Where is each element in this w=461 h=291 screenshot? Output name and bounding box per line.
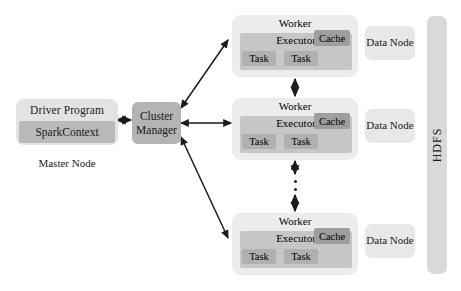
- cache-box[interactable]: Cache: [314, 113, 350, 129]
- data-node-3[interactable]: Data Node: [365, 224, 415, 258]
- task-box[interactable]: Task: [242, 249, 276, 264]
- ellipsis-dot: [294, 180, 297, 183]
- task-box[interactable]: Task: [242, 51, 276, 66]
- worker-title: Worker: [232, 100, 358, 112]
- diagram-canvas: Driver Program SparkContext Master Node …: [0, 0, 461, 291]
- cache-box[interactable]: Cache: [314, 228, 350, 244]
- hdfs-storage-bar[interactable]: HDFS: [427, 16, 447, 274]
- cluster-manager-line1: Cluster: [140, 109, 173, 123]
- data-node-2[interactable]: Data Node: [365, 109, 415, 143]
- driver-program-label: Driver Program: [16, 99, 118, 121]
- sparkcontext-box[interactable]: SparkContext: [19, 121, 115, 143]
- cache-box[interactable]: Cache: [314, 30, 350, 46]
- task-box[interactable]: Task: [284, 51, 318, 66]
- hdfs-label: HDFS: [430, 128, 445, 163]
- worker-title: Worker: [232, 17, 358, 29]
- worker-node-3[interactable]: Worker Executor Cache Task Task: [232, 213, 358, 275]
- cluster-manager-box[interactable]: Cluster Manager: [132, 102, 181, 144]
- executor-box[interactable]: Executor Cache Task Task: [240, 231, 352, 268]
- data-node-1[interactable]: Data Node: [365, 26, 415, 60]
- worker-node-1[interactable]: Worker Executor Cache Task Task: [232, 15, 358, 77]
- task-box[interactable]: Task: [242, 134, 276, 149]
- worker-node-2[interactable]: Worker Executor Cache Task Task: [232, 98, 358, 160]
- master-node-label: Master Node: [16, 157, 118, 169]
- executor-box[interactable]: Executor Cache Task Task: [240, 33, 352, 70]
- task-box[interactable]: Task: [284, 134, 318, 149]
- worker-title: Worker: [232, 215, 358, 227]
- task-box[interactable]: Task: [284, 249, 318, 264]
- cluster-manager-line2: Manager: [136, 123, 177, 137]
- ellipsis-dot: [294, 188, 297, 191]
- executor-box[interactable]: Executor Cache Task Task: [240, 116, 352, 153]
- driver-program-box[interactable]: Driver Program SparkContext: [16, 99, 118, 145]
